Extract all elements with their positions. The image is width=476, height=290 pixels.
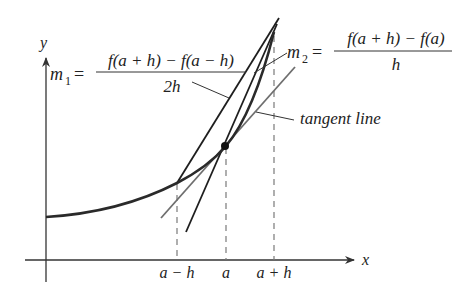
tick-label-a: a bbox=[222, 264, 230, 281]
diagram-canvas: x y a − h a a + h m 1 = f(a bbox=[0, 0, 476, 290]
m2-subscript: 2 bbox=[302, 52, 308, 66]
m1-numerator: f(a + h) − f(a − h) bbox=[108, 51, 234, 70]
m1-denominator: 2h bbox=[164, 77, 181, 96]
formula-m1: m 1 = f(a + h) − f(a − h) 2h bbox=[50, 51, 246, 98]
secant-m1 bbox=[177, 18, 279, 183]
m2-denominator: h bbox=[392, 55, 401, 74]
formula-m2: m 2 = f(a + h) − f(a) h bbox=[254, 29, 452, 74]
m2-numerator: f(a + h) − f(a) bbox=[347, 29, 445, 48]
y-axis-label: y bbox=[38, 34, 48, 52]
m1-equals: = bbox=[74, 64, 84, 84]
m2-lhs: m bbox=[287, 42, 300, 62]
tangent-label: tangent line bbox=[300, 109, 381, 128]
m2-equals: = bbox=[312, 42, 322, 62]
m2-leader-line bbox=[254, 53, 287, 73]
m1-lhs: m bbox=[50, 64, 63, 84]
m1-leader-line bbox=[192, 82, 229, 98]
tangent-annotation: tangent line bbox=[256, 109, 381, 128]
tangent-leader-line bbox=[256, 112, 294, 120]
tick-label-a-plus-h: a + h bbox=[257, 264, 292, 281]
m1-subscript: 1 bbox=[65, 74, 71, 88]
point-a bbox=[221, 142, 229, 150]
tick-label-a-minus-h: a − h bbox=[160, 264, 195, 281]
x-axis-label: x bbox=[361, 251, 369, 268]
tick-labels: a − h a a + h bbox=[160, 264, 292, 281]
